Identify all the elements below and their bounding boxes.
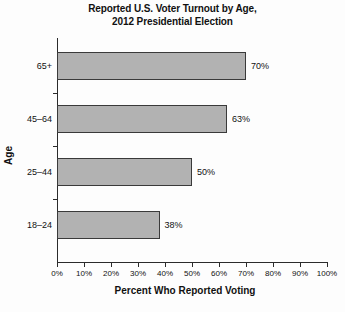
x-axis-tick (219, 263, 220, 267)
x-axis-tick (327, 263, 328, 267)
x-axis-tick-label: 30% (123, 269, 153, 278)
x-axis-tick-label: 100% (312, 269, 342, 278)
chart-title-line-2: 2012 Presidential Election (0, 15, 345, 28)
bar-value-label: 70% (251, 62, 269, 71)
x-axis-tick-label: 0% (42, 269, 72, 278)
y-axis-tick (53, 93, 57, 94)
bar-value-label: 38% (165, 221, 183, 230)
x-axis-tick-label: 40% (150, 269, 180, 278)
bar-value-label: 63% (232, 115, 250, 124)
bar-45-64 (57, 105, 227, 133)
x-axis-tick (111, 263, 112, 267)
x-axis-tick-label: 90% (285, 269, 315, 278)
x-axis-tick-label: 60% (204, 269, 234, 278)
category-label: 65+ (0, 62, 52, 71)
x-axis-tick-label: 10% (69, 269, 99, 278)
x-axis-tick-label: 20% (96, 269, 126, 278)
x-axis-tick (57, 263, 58, 267)
category-label: 45–64 (0, 115, 52, 124)
x-axis-tick-label: 50% (177, 269, 207, 278)
bar-65+ (57, 52, 246, 80)
bar-value-label: 50% (197, 168, 215, 177)
x-axis-tick (138, 263, 139, 267)
x-axis-title: Percent Who Reported Voting (40, 285, 330, 296)
x-axis-tick (300, 263, 301, 267)
chart-title: Reported U.S. Voter Turnout by Age, 2012… (0, 2, 345, 28)
x-axis-tick-label: 80% (258, 269, 288, 278)
x-axis-tick (192, 263, 193, 267)
bar-25-44 (57, 158, 192, 186)
y-axis-tick (53, 146, 57, 147)
bar-chart: Reported U.S. Voter Turnout by Age, 2012… (0, 0, 345, 312)
chart-title-line-1: Reported U.S. Voter Turnout by Age, (0, 2, 345, 15)
x-axis-tick (273, 263, 274, 267)
x-axis-tick (84, 263, 85, 267)
category-label: 18–24 (0, 221, 52, 230)
y-axis-title: Age (3, 134, 14, 178)
x-axis-tick (165, 263, 166, 267)
y-axis-tick (53, 199, 57, 200)
x-axis-tick-label: 70% (231, 269, 261, 278)
x-axis-tick (246, 263, 247, 267)
bar-18-24 (57, 211, 160, 239)
